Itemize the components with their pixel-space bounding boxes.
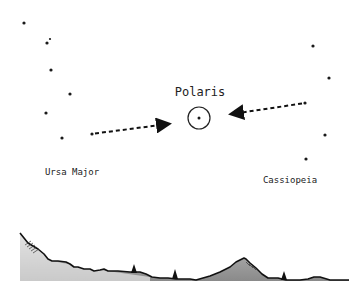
- tree-icon: [172, 269, 178, 279]
- star-icon: [68, 92, 71, 95]
- cassiopeia-stars: [303, 44, 330, 160]
- polaris-label: Polaris: [175, 85, 226, 99]
- star-icon: [49, 38, 51, 40]
- star-icon: [45, 41, 48, 44]
- polaris-star-icon: [198, 117, 201, 120]
- cassiopeia-pointer-arrow: [232, 104, 302, 115]
- star-icon: [323, 133, 326, 136]
- horizon-landscape: [20, 233, 349, 281]
- star-icon: [22, 21, 25, 24]
- star-icon: [303, 101, 306, 104]
- ursa-major-label: Ursa Major: [45, 167, 100, 177]
- star-icon: [90, 132, 93, 135]
- star-icon: [327, 76, 330, 79]
- tree-icon: [281, 271, 287, 280]
- ursa-major-pointer-arrow: [95, 124, 168, 134]
- star-icon: [311, 44, 314, 47]
- star-diagram: Polaris Ursa Major Cassiopeia: [0, 0, 349, 281]
- ursa-major-stars: [22, 21, 93, 139]
- star-icon: [44, 111, 47, 114]
- star-icon: [60, 136, 63, 139]
- star-icon: [49, 68, 52, 71]
- tree-icon: [131, 264, 137, 273]
- polaris-marker: [188, 107, 210, 129]
- cassiopeia-label: Cassiopeia: [263, 175, 317, 185]
- star-icon: [304, 157, 307, 160]
